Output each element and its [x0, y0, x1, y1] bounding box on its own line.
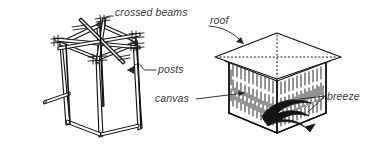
label-posts: posts: [158, 64, 184, 75]
posts-leader: [127, 64, 156, 74]
label-roof: roof: [210, 15, 229, 26]
figure-svg: [0, 0, 377, 150]
label-canvas: canvas: [155, 93, 189, 104]
roof-leader: [209, 26, 244, 44]
label-crossed-beams: crossed beams: [115, 7, 188, 18]
left-frame-diagram: [44, 15, 144, 137]
illustration-canvas: crossed beams posts roof canvas breeze: [0, 0, 377, 150]
label-breeze: breeze: [327, 91, 360, 102]
frame-lower-rails: [44, 92, 139, 136]
right-shelter-diagram: [215, 33, 341, 133]
